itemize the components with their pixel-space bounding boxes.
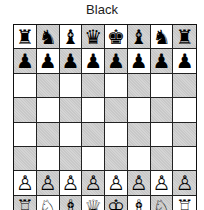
- black-rook-icon[interactable]: ♜: [16, 27, 34, 47]
- square-e2[interactable]: ♙: [105, 171, 128, 195]
- square-f4[interactable]: [128, 123, 151, 147]
- white-knight-icon[interactable]: ♘: [152, 197, 170, 210]
- square-b1[interactable]: ♘: [37, 196, 60, 210]
- square-a6[interactable]: [14, 74, 37, 98]
- side-label-black: Black: [0, 2, 204, 17]
- black-pawn-icon[interactable]: ♟: [176, 51, 194, 71]
- white-rook-icon[interactable]: ♖: [16, 197, 34, 210]
- square-e5[interactable]: [105, 98, 128, 122]
- white-pawn-icon[interactable]: ♙: [84, 173, 102, 193]
- square-a7[interactable]: ♟: [14, 49, 37, 73]
- white-pawn-icon[interactable]: ♙: [152, 173, 170, 193]
- square-g4[interactable]: [151, 123, 174, 147]
- chess-board: ♜♞♝♛♚♝♞♜♟♟♟♟♟♟♟♟♙♙♙♙♙♙♙♙♖♘♗♕♔♗♘♖: [13, 24, 197, 210]
- square-e7[interactable]: ♟: [105, 49, 128, 73]
- square-a1[interactable]: ♖: [14, 196, 37, 210]
- white-pawn-icon[interactable]: ♙: [61, 173, 79, 193]
- square-a5[interactable]: [14, 98, 37, 122]
- square-d8[interactable]: ♛: [82, 25, 105, 49]
- square-g5[interactable]: [151, 98, 174, 122]
- square-a2[interactable]: ♙: [14, 171, 37, 195]
- black-pawn-icon[interactable]: ♟: [130, 51, 148, 71]
- white-pawn-icon[interactable]: ♙: [39, 173, 57, 193]
- white-king-icon[interactable]: ♔: [107, 197, 125, 210]
- white-queen-icon[interactable]: ♕: [84, 197, 102, 210]
- square-b7[interactable]: ♟: [37, 49, 60, 73]
- black-pawn-icon[interactable]: ♟: [61, 51, 79, 71]
- square-g3[interactable]: [151, 147, 174, 171]
- black-bishop-icon[interactable]: ♝: [61, 27, 79, 47]
- black-rook-icon[interactable]: ♜: [176, 27, 194, 47]
- square-c6[interactable]: [60, 74, 83, 98]
- black-knight-icon[interactable]: ♞: [39, 27, 57, 47]
- square-c8[interactable]: ♝: [60, 25, 83, 49]
- square-h4[interactable]: [173, 123, 196, 147]
- square-b3[interactable]: [37, 147, 60, 171]
- square-h8[interactable]: ♜: [173, 25, 196, 49]
- square-e8[interactable]: ♚: [105, 25, 128, 49]
- square-e6[interactable]: [105, 74, 128, 98]
- white-knight-icon[interactable]: ♘: [39, 197, 57, 210]
- black-bishop-icon[interactable]: ♝: [130, 27, 148, 47]
- black-pawn-icon[interactable]: ♟: [39, 51, 57, 71]
- square-b6[interactable]: [37, 74, 60, 98]
- white-bishop-icon[interactable]: ♗: [130, 197, 148, 210]
- black-queen-icon[interactable]: ♛: [84, 27, 102, 47]
- square-a3[interactable]: [14, 147, 37, 171]
- square-h7[interactable]: ♟: [173, 49, 196, 73]
- square-h1[interactable]: ♖: [173, 196, 196, 210]
- white-pawn-icon[interactable]: ♙: [130, 173, 148, 193]
- square-f2[interactable]: ♙: [128, 171, 151, 195]
- black-pawn-icon[interactable]: ♟: [107, 51, 125, 71]
- square-d7[interactable]: ♟: [82, 49, 105, 73]
- square-e1[interactable]: ♔: [105, 196, 128, 210]
- black-pawn-icon[interactable]: ♟: [152, 51, 170, 71]
- square-c5[interactable]: [60, 98, 83, 122]
- square-c4[interactable]: [60, 123, 83, 147]
- square-g6[interactable]: [151, 74, 174, 98]
- square-e4[interactable]: [105, 123, 128, 147]
- square-d6[interactable]: [82, 74, 105, 98]
- square-f3[interactable]: [128, 147, 151, 171]
- square-h6[interactable]: [173, 74, 196, 98]
- white-pawn-icon[interactable]: ♙: [16, 173, 34, 193]
- square-c7[interactable]: ♟: [60, 49, 83, 73]
- square-c2[interactable]: ♙: [60, 171, 83, 195]
- square-d3[interactable]: [82, 147, 105, 171]
- black-king-icon[interactable]: ♚: [107, 27, 125, 47]
- white-pawn-icon[interactable]: ♙: [107, 173, 125, 193]
- square-g2[interactable]: ♙: [151, 171, 174, 195]
- white-bishop-icon[interactable]: ♗: [61, 197, 79, 210]
- black-pawn-icon[interactable]: ♟: [84, 51, 102, 71]
- square-d2[interactable]: ♙: [82, 171, 105, 195]
- black-pawn-icon[interactable]: ♟: [16, 51, 34, 71]
- square-a4[interactable]: [14, 123, 37, 147]
- square-b2[interactable]: ♙: [37, 171, 60, 195]
- square-f7[interactable]: ♟: [128, 49, 151, 73]
- square-e3[interactable]: [105, 147, 128, 171]
- square-f8[interactable]: ♝: [128, 25, 151, 49]
- square-c3[interactable]: [60, 147, 83, 171]
- square-d1[interactable]: ♕: [82, 196, 105, 210]
- square-f1[interactable]: ♗: [128, 196, 151, 210]
- square-b5[interactable]: [37, 98, 60, 122]
- square-g7[interactable]: ♟: [151, 49, 174, 73]
- square-b8[interactable]: ♞: [37, 25, 60, 49]
- square-c1[interactable]: ♗: [60, 196, 83, 210]
- white-pawn-icon[interactable]: ♙: [176, 173, 194, 193]
- square-g8[interactable]: ♞: [151, 25, 174, 49]
- square-h3[interactable]: [173, 147, 196, 171]
- square-f5[interactable]: [128, 98, 151, 122]
- square-g1[interactable]: ♘: [151, 196, 174, 210]
- square-d5[interactable]: [82, 98, 105, 122]
- square-h2[interactable]: ♙: [173, 171, 196, 195]
- square-d4[interactable]: [82, 123, 105, 147]
- black-knight-icon[interactable]: ♞: [152, 27, 170, 47]
- square-b4[interactable]: [37, 123, 60, 147]
- square-h5[interactable]: [173, 98, 196, 122]
- square-a8[interactable]: ♜: [14, 25, 37, 49]
- white-rook-icon[interactable]: ♖: [176, 197, 194, 210]
- square-f6[interactable]: [128, 74, 151, 98]
